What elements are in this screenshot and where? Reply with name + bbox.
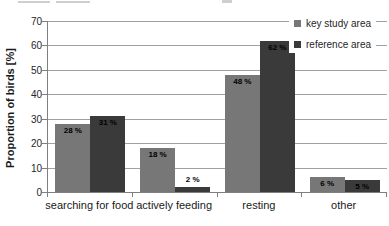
gridline <box>48 70 387 71</box>
cropped-text-artifact <box>222 0 232 3</box>
category-label: other <box>331 199 356 211</box>
y-tick-label: 10 <box>14 163 42 174</box>
legend: key study area reference area <box>289 15 376 53</box>
gridline <box>48 94 387 95</box>
legend-label: key study area <box>306 18 371 29</box>
x-tick-mark <box>132 193 133 197</box>
legend-item-reference-area: reference area <box>294 39 371 50</box>
bar-value-label: 18 % <box>140 150 176 160</box>
legend-marker-icon <box>294 20 301 27</box>
category-label: searching for food <box>45 199 133 211</box>
x-tick-mark <box>217 193 218 197</box>
bar <box>225 75 260 192</box>
y-tick-label: 40 <box>14 89 42 100</box>
y-tick-mark <box>42 119 47 120</box>
cropped-text-artifact <box>56 1 90 3</box>
x-tick-mark <box>301 193 302 197</box>
x-tick-mark <box>386 193 387 197</box>
y-tick-mark <box>42 143 47 144</box>
y-tick-mark <box>42 94 47 95</box>
bar-value-label: 6 % <box>309 179 345 189</box>
cropped-text-artifact <box>18 1 50 3</box>
bar <box>175 187 210 192</box>
legend-item-key-study-area: key study area <box>294 18 371 29</box>
y-tick-mark <box>42 70 47 71</box>
category-label: resting <box>242 199 275 211</box>
bar-chart: Proportion of birds [%] 28 %31 %18 %2 %4… <box>0 0 389 226</box>
legend-label: reference area <box>306 39 371 50</box>
bar-value-label: 31 % <box>90 118 126 128</box>
y-tick-mark <box>42 168 47 169</box>
bar-value-label: 48 % <box>224 77 260 87</box>
bar-value-label: 2 % <box>175 175 211 185</box>
bar-value-label: 28 % <box>55 126 91 136</box>
y-tick-label: 30 <box>14 114 42 125</box>
y-tick-label: 0 <box>14 187 42 198</box>
bar-value-label: 5 % <box>344 182 380 192</box>
category-label: actively feeding <box>136 199 212 211</box>
y-tick-mark <box>42 21 47 22</box>
y-tick-label: 70 <box>14 16 42 27</box>
bar <box>260 41 295 192</box>
y-tick-label: 60 <box>14 40 42 51</box>
y-tick-label: 20 <box>14 138 42 149</box>
y-tick-label: 50 <box>14 65 42 76</box>
x-tick-mark <box>47 193 48 197</box>
y-tick-mark <box>42 45 47 46</box>
legend-marker-icon <box>294 41 301 48</box>
